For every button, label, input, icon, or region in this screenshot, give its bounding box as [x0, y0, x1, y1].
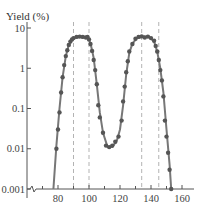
y-tick-label: 0.01 [7, 143, 25, 154]
data-point [88, 42, 92, 46]
x-tick-label: 100 [81, 193, 97, 204]
data-point [101, 131, 105, 135]
y-tick-label: 10 [15, 23, 26, 34]
data-point [119, 118, 123, 122]
data-point [126, 59, 130, 63]
data-point [92, 58, 96, 62]
dashed-reference-lines [74, 22, 159, 189]
data-point [64, 54, 68, 58]
data-point [57, 110, 61, 114]
data-point [127, 49, 131, 53]
data-point [110, 143, 114, 147]
data-point [157, 58, 161, 62]
data-point [166, 151, 170, 155]
data-point [161, 94, 165, 98]
data-point [116, 134, 120, 138]
data-point [93, 68, 97, 72]
y-tick-label: 0.1 [12, 103, 25, 114]
data-point [65, 48, 69, 52]
data-point [124, 70, 128, 74]
data-point [98, 115, 102, 119]
data-point [169, 187, 173, 191]
data-point [113, 140, 117, 144]
data-point [130, 42, 134, 46]
data-point [123, 84, 127, 88]
x-tick-label: 140 [143, 193, 159, 204]
data-points [54, 34, 173, 191]
data-point [60, 75, 64, 79]
data-point [87, 37, 91, 41]
x-tick-label: 120 [112, 193, 128, 204]
y-tick-label: 1 [20, 63, 25, 74]
data-point [164, 134, 168, 138]
data-point [155, 49, 159, 53]
x-tick-label: 160 [174, 193, 190, 204]
data-point [56, 127, 60, 131]
data-point [62, 63, 66, 67]
data-point [160, 78, 164, 82]
data-point [121, 99, 125, 103]
y-tick-label: 0.001 [1, 184, 25, 195]
data-point [59, 90, 63, 94]
fit-curve [53, 37, 171, 189]
yield-chart: 1010.10.010.00180100120140160 [0, 0, 198, 208]
data-point [154, 44, 158, 48]
data-point [152, 39, 156, 43]
x-tick-label: 80 [53, 193, 64, 204]
data-point [96, 103, 100, 107]
data-point [54, 147, 58, 151]
data-point [95, 82, 99, 86]
data-point [163, 118, 167, 122]
data-point [90, 49, 94, 53]
data-point [158, 68, 162, 72]
data-point [167, 168, 171, 172]
